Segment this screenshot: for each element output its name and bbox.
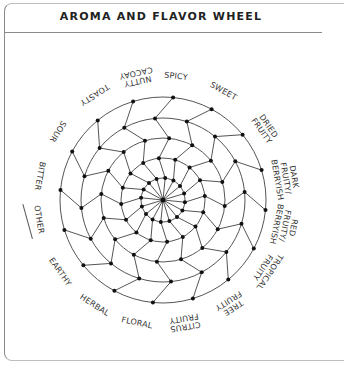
category-label-text: FLORAL <box>121 315 154 330</box>
wheel-dot <box>241 133 245 137</box>
wheel-dot <box>155 260 159 264</box>
wheel-dot <box>171 179 175 183</box>
wheel-dot <box>173 158 177 162</box>
category-label-tropical-fruity: TROPICALFRUITY <box>247 247 285 292</box>
wheel-dot <box>106 169 110 173</box>
wheel-dot <box>155 177 159 181</box>
category-label-tree-fruity: TREEFRUITY <box>214 289 248 320</box>
wheel-dot <box>124 218 128 222</box>
wheel-dot <box>109 261 113 265</box>
category-label-other: OTHER <box>23 201 46 239</box>
wheel-dot <box>179 257 183 261</box>
wheel-spoke <box>155 98 173 201</box>
wheel-dot <box>151 301 155 305</box>
wheel-dot <box>151 217 155 221</box>
wheel-dot <box>183 200 187 204</box>
wheel-dot <box>167 219 171 223</box>
wheel-dot <box>153 116 157 120</box>
wheel-dot <box>260 168 264 172</box>
wheel-dot <box>200 270 204 274</box>
wheel-dot <box>191 297 195 301</box>
category-label-dried-fruity: DRIEDFRUITY <box>249 112 280 146</box>
wheel-dot <box>194 225 198 229</box>
category-label-red-fruity-berryish: REDFRUITY/BERRYISH <box>268 203 302 249</box>
wheel-dot <box>224 250 228 254</box>
category-label-sweet: SWEET <box>209 80 239 102</box>
wheel-dot <box>198 178 202 182</box>
category-label-text: SPICY <box>164 70 188 81</box>
wheel-dot <box>70 149 74 153</box>
category-label-spicy: SPICY <box>164 70 188 81</box>
wheel-dot <box>89 237 93 241</box>
category-label-text: SWEET <box>209 80 239 102</box>
wheel-dot <box>83 174 87 178</box>
wheel-dot <box>147 181 151 185</box>
category-label-sour: SOUR <box>47 119 68 144</box>
wheel-dot <box>122 150 126 154</box>
wheel-dot <box>132 253 136 257</box>
wheel-center-dot <box>161 198 166 203</box>
category-label-herbal: HERBAL <box>78 292 111 318</box>
wheel-dot <box>129 171 133 175</box>
wheel-dot <box>190 143 194 147</box>
wheel-dot <box>112 289 116 293</box>
wheel-dot <box>210 107 214 111</box>
wheel-dot <box>159 220 163 224</box>
wheel-dot <box>226 278 230 282</box>
wheel-dot <box>252 247 256 251</box>
wheel-dot <box>122 126 126 130</box>
wheel-dot <box>141 161 145 165</box>
wheel-dot <box>209 159 213 163</box>
wheel-dot <box>201 210 205 214</box>
wheel-dot <box>181 235 185 239</box>
category-label-citrus-fruity: CITRUSFRUITY <box>168 311 201 334</box>
wheel-dot <box>140 204 144 208</box>
wheel-dot <box>180 208 184 212</box>
wheel-dot <box>165 240 169 244</box>
category-label-toasty: TOASTY <box>79 82 112 108</box>
wheel-dot <box>79 206 83 210</box>
category-label-text: EARTHY <box>47 256 73 288</box>
wheel-dot <box>216 227 220 231</box>
wheel-dot <box>200 246 204 250</box>
category-label-text: OTHER <box>32 205 45 235</box>
wheel-dot <box>144 212 148 216</box>
wheel-dot <box>149 238 153 242</box>
wheel-dot <box>102 216 106 220</box>
category-label-text: SOUR <box>47 119 68 144</box>
wheel-dot <box>139 196 143 200</box>
wheel-dot <box>175 215 179 219</box>
wheel-dot <box>203 194 207 198</box>
category-label-text: HERBAL <box>78 292 111 318</box>
wheel-dot <box>188 166 192 170</box>
wheel-dot <box>119 202 123 206</box>
wheel-dot <box>59 188 63 192</box>
wheel-spoke <box>163 192 266 210</box>
wheel-dot <box>121 186 125 190</box>
wheel-dot <box>220 180 224 184</box>
wheel-dot <box>99 192 103 196</box>
wheel-dot <box>223 204 227 208</box>
category-label-nutty-cacoay: NUTTYCACOAY <box>119 65 156 89</box>
wheel-dot <box>178 184 182 188</box>
wheel-dot <box>113 237 117 241</box>
wheel-dot <box>243 190 247 194</box>
wheel-dot <box>171 96 175 100</box>
wheel-dot <box>143 139 147 143</box>
wheel-dot <box>137 277 141 281</box>
category-label-dark-fruity-berryish: DARKFRUITY/BERRYISH <box>269 156 302 201</box>
category-label-bitter: BITTER <box>33 161 47 192</box>
wheel-dot <box>163 176 167 180</box>
wheel-dot <box>167 136 171 140</box>
category-label-text: TOASTY <box>79 82 112 108</box>
category-label-earthy: EARTHY <box>47 256 73 288</box>
other-underline <box>23 203 33 239</box>
wheel-dot <box>213 135 217 139</box>
wheel-dot <box>233 159 237 163</box>
wheel-dot <box>185 120 189 124</box>
wheel-dot <box>142 188 146 192</box>
wheel-dot <box>62 228 66 232</box>
category-label-text: BITTER <box>33 161 47 192</box>
wheel-dot <box>134 231 138 235</box>
wheel-dot <box>131 99 135 103</box>
